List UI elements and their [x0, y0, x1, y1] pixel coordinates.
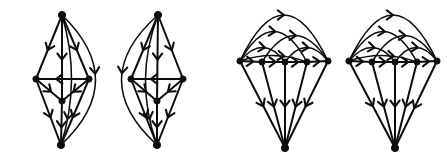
vertex-bipyramid-right-arc-top	[154, 11, 161, 18]
edge-parachute-right-v1-to-a-10	[349, 61, 395, 148]
vertex-parachute-left-row-3	[282, 59, 288, 65]
edge-bipyramid-left-arc-t-to-r-1	[62, 15, 89, 79]
digraph-panel-parachute-right	[346, 10, 440, 151]
edge-parachute-right-v2-to-a-11	[372, 62, 395, 148]
edge-parachute-left-v1-to-a-10	[240, 61, 285, 148]
directed-graph-figure	[0, 0, 447, 166]
edge-group	[240, 10, 328, 148]
vertex-bipyramid-right-arc-bottom	[153, 141, 160, 148]
edge-group	[349, 10, 437, 148]
edge-bipyramid-left-arc-t-to-l-0	[36, 15, 62, 79]
edge-parachute-left-v4-to-a-13	[285, 62, 307, 148]
edge-bipyramid-right-arc-t-to-r-1	[158, 15, 183, 79]
edge-parachute-left-v2-to-a-11	[262, 62, 285, 148]
vertex-parachute-left-row-5	[325, 58, 331, 64]
vertex-parachute-right-row-3	[392, 59, 398, 65]
vertex-bipyramid-left-arc-left	[33, 76, 39, 82]
vertex-parachute-right-row-5	[434, 58, 440, 64]
vertex-bipyramid-left-arc-right	[86, 76, 92, 82]
vertex-parachute-right-row-4	[414, 59, 420, 65]
vertex-bipyramid-right-arc-center	[154, 98, 160, 104]
vertex-parachute-left-row-4	[304, 59, 310, 65]
vertex-parachute-right-apex	[391, 144, 398, 151]
digraph-panel-bipyramid-right-arc	[118, 11, 186, 148]
vertex-bipyramid-right-arc-right	[180, 76, 186, 82]
vertex-parachute-right-row-2	[369, 59, 375, 65]
edge-bipyramid-left-arc-c-to-b-7	[61, 101, 62, 145]
vertex-bipyramid-left-arc-top	[58, 11, 65, 18]
edge-parachute-left-v5-to-a-14	[285, 61, 328, 148]
vertex-bipyramid-left-arc-bottom	[57, 141, 64, 148]
vertex-parachute-left-row-1	[237, 58, 243, 64]
figure-board	[0, 0, 447, 166]
vertex-bipyramid-right-arc-left	[128, 76, 134, 82]
edge-parachute-right-v5-to-a-14	[395, 61, 437, 148]
vertex-parachute-left-apex	[281, 144, 288, 151]
vertex-bipyramid-left-arc-center	[59, 98, 65, 104]
digraph-panel-parachute-left	[237, 10, 331, 151]
vertex-parachute-right-row-1	[346, 58, 352, 64]
vertex-parachute-left-row-2	[259, 59, 265, 65]
digraph-panel-bipyramid-left-arc	[33, 11, 99, 148]
